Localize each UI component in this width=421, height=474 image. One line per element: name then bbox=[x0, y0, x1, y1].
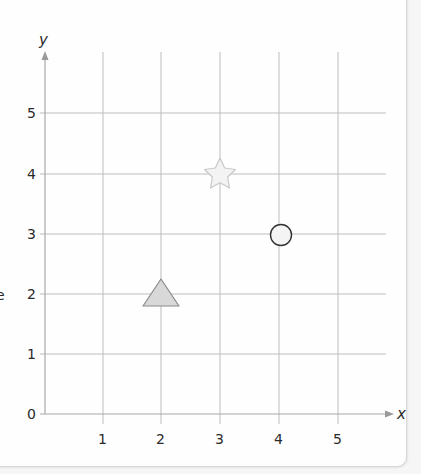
x-tick-4: 4 bbox=[274, 431, 283, 447]
y-axis-label: y bbox=[38, 31, 49, 49]
x-axis-arrow-icon bbox=[385, 411, 394, 418]
y-tick-2: 2 bbox=[27, 286, 36, 302]
triangle-icon bbox=[143, 279, 179, 306]
y-axis bbox=[42, 51, 49, 414]
x-tick-2: 2 bbox=[156, 431, 165, 447]
y-tick-4: 4 bbox=[27, 166, 36, 182]
y-tick-3: 3 bbox=[27, 226, 36, 242]
x-tick-1: 1 bbox=[98, 431, 107, 447]
y-tick-1: 1 bbox=[27, 346, 36, 362]
y-tick-5: 5 bbox=[27, 105, 36, 121]
x-tick-5: 5 bbox=[333, 431, 342, 447]
y-tick-0: 0 bbox=[27, 406, 36, 422]
x-axis bbox=[40, 411, 394, 418]
vertical-gridlines bbox=[103, 52, 338, 424]
x-tick-3: 3 bbox=[215, 431, 224, 447]
x-axis-label: x bbox=[396, 405, 406, 423]
circle-icon bbox=[271, 225, 292, 246]
horizontal-gridlines bbox=[40, 113, 386, 354]
y-axis-arrow-icon bbox=[42, 51, 49, 60]
coordinate-grid: y x 0 1 2 3 4 5 1 2 3 4 5 bbox=[0, 0, 421, 474]
